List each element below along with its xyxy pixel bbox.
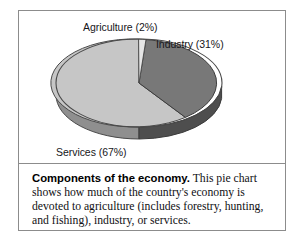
pie-label-agriculture: Agriculture (2%) (83, 21, 157, 33)
pie-label-services: Services (67%) (56, 146, 127, 158)
caption-separator (19, 163, 285, 164)
caption-title: Components of the economy. (32, 172, 190, 184)
figure-caption: Components of the economy. This pie char… (32, 171, 275, 228)
pie-top-face (51, 39, 222, 127)
pie-chart-svg (19, 11, 285, 163)
pie-chart: Agriculture (2%) Industry (31%) Services… (19, 11, 285, 163)
pie-label-industry: Industry (31%) (156, 38, 224, 50)
figure-frame: Agriculture (2%) Industry (31%) Services… (18, 10, 286, 231)
